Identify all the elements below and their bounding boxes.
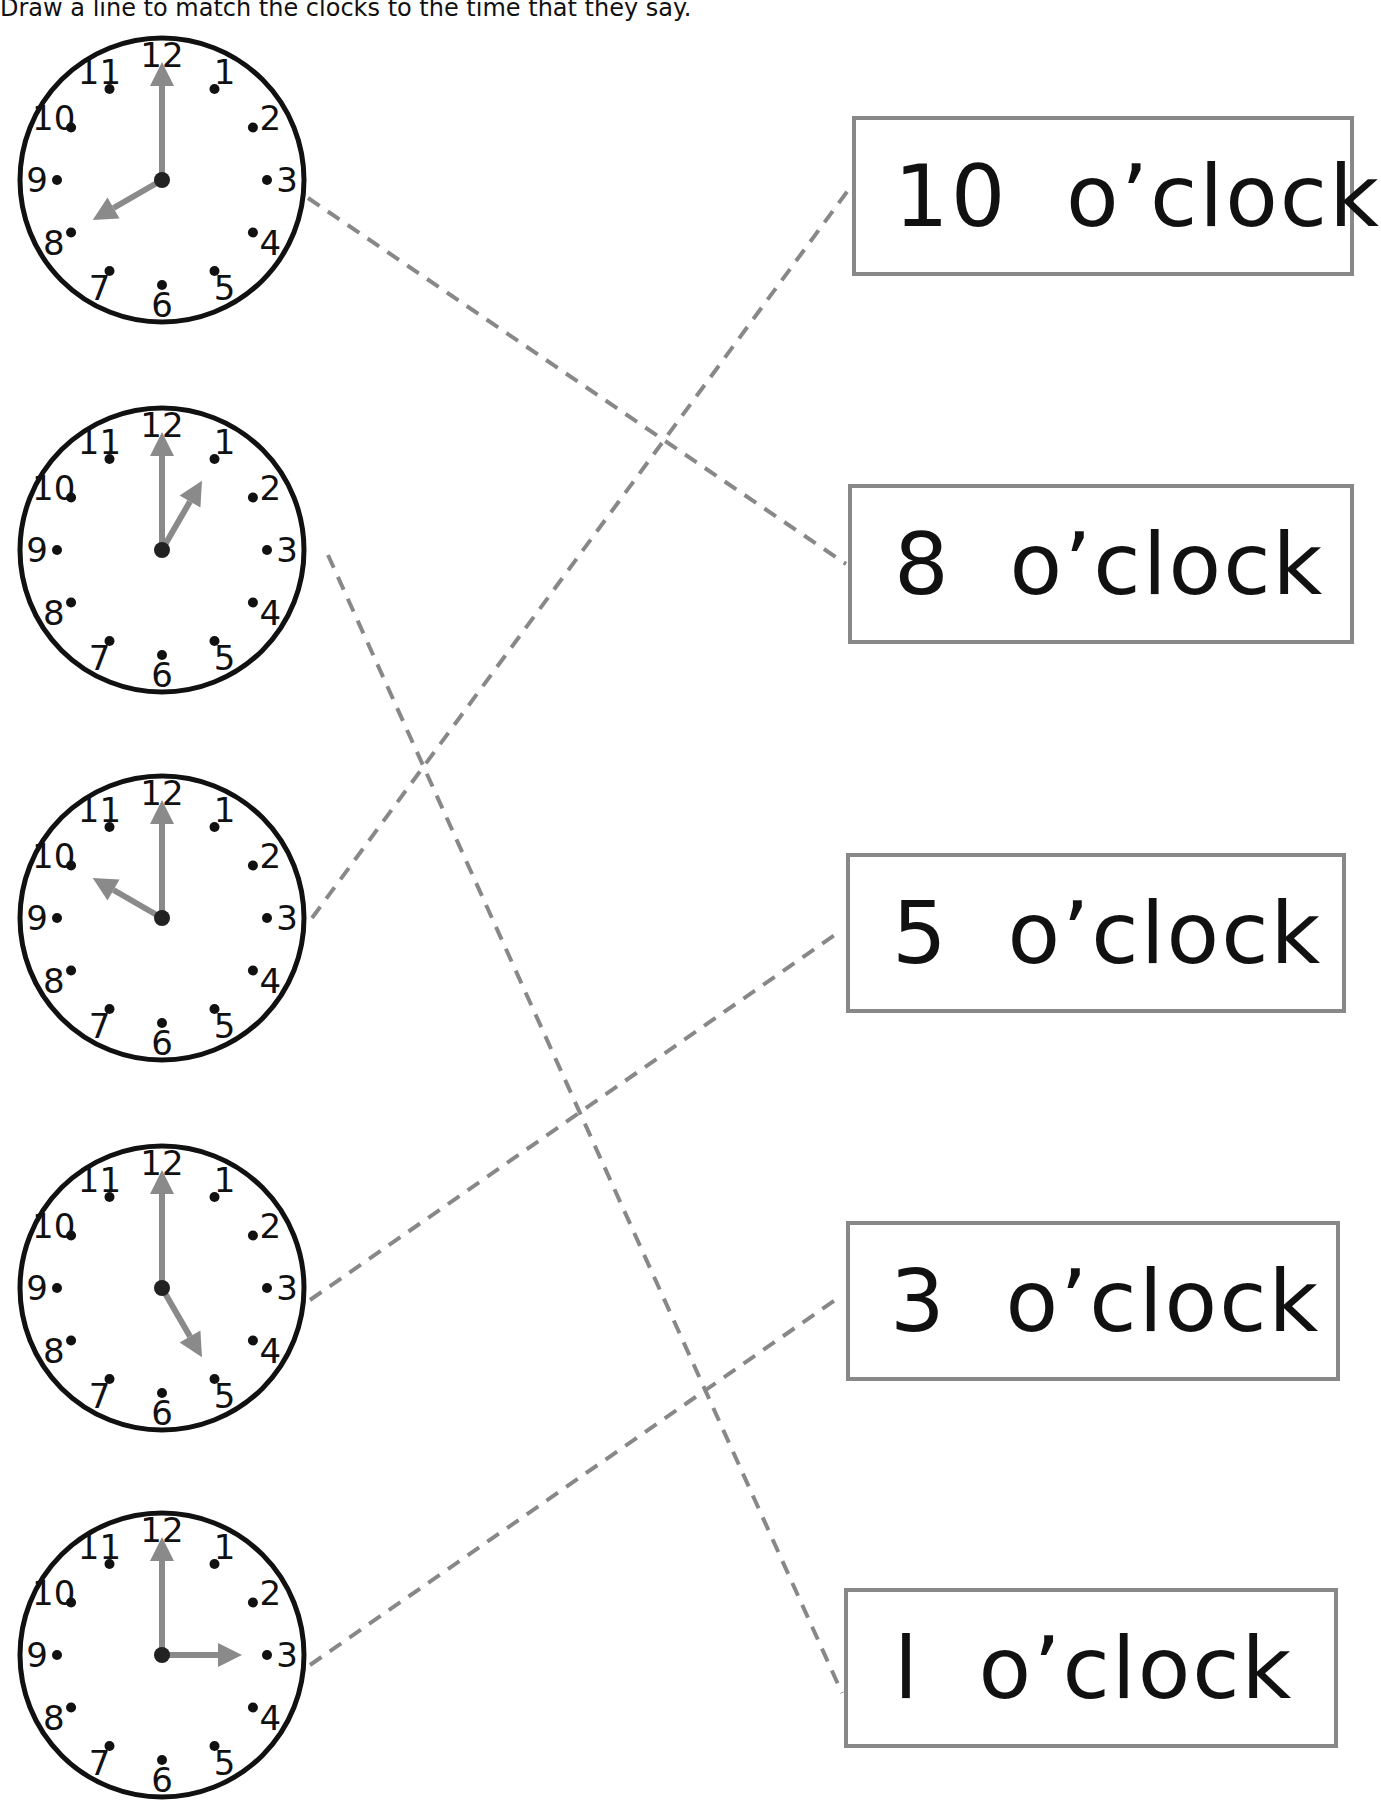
label-text: 10 o’clock — [894, 146, 1381, 246]
svg-text:10: 10 — [32, 836, 75, 876]
svg-text:1: 1 — [214, 52, 236, 92]
svg-text:2: 2 — [259, 98, 281, 138]
svg-text:1: 1 — [214, 1527, 236, 1567]
svg-text:3: 3 — [276, 898, 298, 938]
svg-text:2: 2 — [259, 468, 281, 508]
svg-text:9: 9 — [26, 1268, 48, 1308]
svg-text:11: 11 — [78, 1527, 121, 1567]
svg-text:5: 5 — [214, 638, 236, 678]
svg-text:7: 7 — [89, 1743, 111, 1783]
svg-text:3: 3 — [276, 1635, 298, 1675]
svg-text:8: 8 — [43, 1331, 65, 1371]
label-5-oclock[interactable]: 5 o’clock — [846, 853, 1346, 1013]
svg-text:11: 11 — [78, 422, 121, 462]
svg-text:8: 8 — [43, 593, 65, 633]
svg-text:8: 8 — [43, 961, 65, 1001]
svg-text:4: 4 — [259, 961, 281, 1001]
clock-1-oclock[interactable]: 121234567891011 — [12, 400, 312, 700]
svg-text:2: 2 — [259, 1206, 281, 1246]
svg-text:2: 2 — [259, 836, 281, 876]
clock-10-oclock[interactable]: 121234567891011 — [12, 768, 312, 1068]
svg-text:3: 3 — [276, 1268, 298, 1308]
svg-text:5: 5 — [214, 268, 236, 308]
svg-text:9: 9 — [26, 898, 48, 938]
svg-text:6: 6 — [151, 1760, 173, 1800]
svg-text:6: 6 — [151, 1393, 173, 1433]
clock-8-oclock[interactable]: 121234567891011 — [12, 30, 312, 330]
label-10-oclock[interactable]: 10 o’clock — [852, 116, 1354, 276]
svg-text:5: 5 — [214, 1743, 236, 1783]
match-line-3 — [310, 1298, 838, 1665]
svg-text:10: 10 — [32, 1573, 75, 1613]
svg-text:3: 3 — [276, 530, 298, 570]
svg-text:6: 6 — [151, 655, 173, 695]
svg-text:6: 6 — [151, 1023, 173, 1063]
label-text: l o’clock — [894, 1618, 1293, 1718]
svg-text:10: 10 — [32, 468, 75, 508]
label-3-oclock[interactable]: 3 o’clock — [846, 1221, 1340, 1381]
svg-text:1: 1 — [214, 1160, 236, 1200]
svg-text:9: 9 — [26, 530, 48, 570]
label-1-oclock[interactable]: l o’clock — [844, 1588, 1338, 1748]
svg-text:6: 6 — [151, 285, 173, 325]
svg-text:7: 7 — [89, 1006, 111, 1046]
svg-text:5: 5 — [214, 1006, 236, 1046]
label-text: 8 o’clock — [894, 514, 1324, 614]
svg-text:4: 4 — [259, 593, 281, 633]
clock-5-oclock[interactable]: 121234567891011 — [12, 1138, 312, 1438]
svg-text:7: 7 — [89, 638, 111, 678]
match-line-5 — [310, 930, 842, 1300]
svg-text:9: 9 — [26, 1635, 48, 1675]
svg-text:8: 8 — [43, 1698, 65, 1738]
svg-text:4: 4 — [259, 1698, 281, 1738]
svg-text:5: 5 — [214, 1376, 236, 1416]
svg-text:8: 8 — [43, 223, 65, 263]
svg-text:4: 4 — [259, 223, 281, 263]
svg-text:2: 2 — [259, 1573, 281, 1613]
label-8-oclock[interactable]: 8 o’clock — [848, 484, 1354, 644]
svg-text:1: 1 — [214, 790, 236, 830]
svg-text:7: 7 — [89, 1376, 111, 1416]
svg-text:3: 3 — [276, 160, 298, 200]
svg-text:1: 1 — [214, 422, 236, 462]
svg-text:7: 7 — [89, 268, 111, 308]
svg-text:10: 10 — [32, 98, 75, 138]
svg-text:9: 9 — [26, 160, 48, 200]
clock-3-oclock[interactable]: 121234567891011 — [12, 1505, 312, 1804]
svg-text:10: 10 — [32, 1206, 75, 1246]
label-text: 5 o’clock — [892, 883, 1322, 983]
svg-text:4: 4 — [259, 1331, 281, 1371]
match-line-1 — [328, 555, 842, 1693]
match-line-8 — [308, 198, 846, 564]
svg-text:11: 11 — [78, 52, 121, 92]
svg-text:11: 11 — [78, 790, 121, 830]
svg-text:11: 11 — [78, 1160, 121, 1200]
match-line-10 — [312, 185, 852, 918]
label-text: 3 o’clock — [890, 1251, 1320, 1351]
